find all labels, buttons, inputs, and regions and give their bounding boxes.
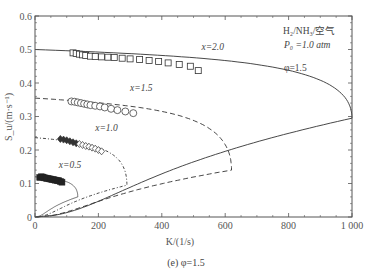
square-marker — [165, 60, 171, 66]
pressure-annotation: P₀ =1.0 atm — [283, 40, 331, 50]
square-marker — [146, 58, 152, 64]
square-marker — [99, 54, 105, 60]
series-label: x=2.0 — [200, 42, 224, 52]
phi-annotation: φ=1.5 — [284, 63, 307, 73]
curve-x=2.0 — [35, 50, 352, 218]
y-tick-label: 0.4 — [20, 78, 33, 89]
y-tick-label: 0.3 — [20, 111, 33, 122]
square-marker — [195, 68, 201, 74]
series-label: x=1.0 — [94, 123, 118, 133]
x-tick-label: 400 — [154, 220, 169, 231]
circle-marker — [101, 104, 108, 111]
mixture-annotation: H₂/NH₃/空气 — [283, 25, 336, 36]
square-marker — [111, 55, 117, 61]
series-label: x=0.5 — [58, 160, 82, 170]
circle-marker — [122, 108, 129, 115]
square-marker — [156, 59, 162, 65]
x-axis-label: K/(1/s) — [166, 236, 194, 248]
square-marker — [187, 63, 193, 69]
x-tick-label: 800 — [281, 220, 296, 231]
square-marker — [127, 56, 133, 62]
circle-marker — [114, 107, 121, 114]
circle-marker — [108, 105, 115, 112]
figure-caption: (e) φ=1.5 — [0, 257, 372, 268]
series-label: x=1.5 — [129, 83, 153, 93]
square-marker — [119, 55, 125, 61]
y-tick-label: 0.1 — [20, 178, 33, 189]
circle-marker — [130, 110, 137, 117]
square-marker — [105, 54, 111, 60]
x-tick-label: 600 — [218, 220, 233, 231]
y-tick-label: 0.2 — [20, 145, 33, 156]
filled-marker — [59, 179, 65, 185]
x-tick-label: 0 — [33, 220, 38, 231]
square-marker — [92, 54, 98, 60]
y-tick-label: 0 — [27, 212, 32, 223]
square-marker — [176, 62, 182, 68]
chart: 02004006008001 00000.10.20.30.40.50.6 x=… — [0, 0, 372, 260]
x-tick-label: 1 000 — [341, 220, 364, 231]
y-axis-label: S_u/(m·s⁻¹) — [3, 93, 15, 141]
curves — [35, 50, 352, 218]
square-marker — [137, 57, 143, 63]
y-tick-label: 0.6 — [20, 11, 33, 22]
x-tick-label: 200 — [91, 220, 106, 231]
y-tick-label: 0.5 — [20, 44, 33, 55]
